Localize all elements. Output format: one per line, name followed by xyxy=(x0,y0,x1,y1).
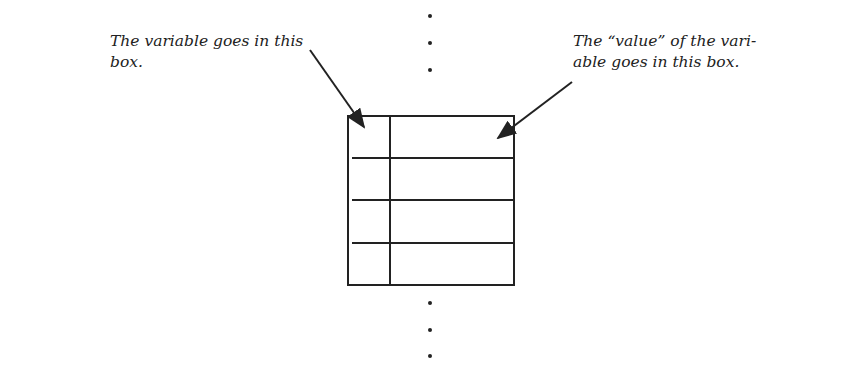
memory-table-diagram xyxy=(0,0,868,370)
value-arrow-icon xyxy=(498,82,572,138)
ellipsis-top xyxy=(428,14,432,72)
variable-arrow-icon xyxy=(310,50,364,127)
memory-table xyxy=(348,116,514,285)
ellipsis-bottom xyxy=(428,301,432,358)
